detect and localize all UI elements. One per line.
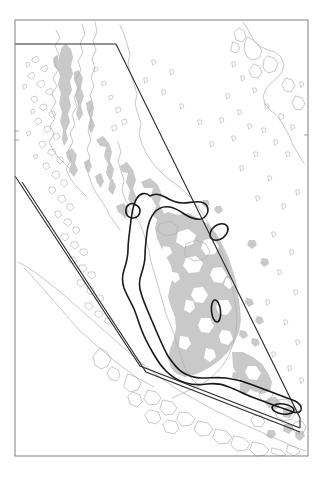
map-figure xyxy=(0,0,324,480)
map-canvas xyxy=(0,0,324,480)
